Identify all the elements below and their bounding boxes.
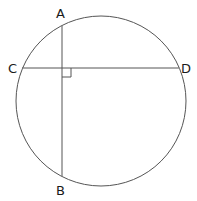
right-angle-marker [62,68,71,77]
label-b: B [56,183,65,198]
circle-diagram: A B C D [0,0,197,201]
label-a: A [56,6,65,21]
label-d: D [181,61,191,76]
label-c: C [8,61,17,76]
circle [16,16,186,186]
